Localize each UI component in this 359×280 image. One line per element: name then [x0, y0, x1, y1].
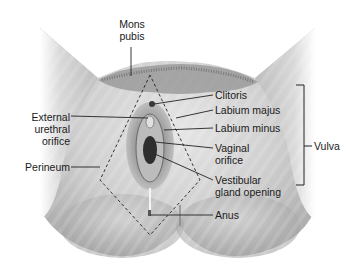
label-anus: Anus [215, 209, 239, 221]
label-line: Vaginal [215, 142, 249, 154]
label-line: Vestibular [215, 174, 281, 186]
label-vulva: Vulva [314, 140, 340, 152]
label-vestibular-gland-opening: Vestibular gland opening [215, 174, 281, 198]
label-labium-minus: Labium minus [215, 122, 280, 134]
label-line: External [14, 111, 70, 123]
label-line: orifice [215, 154, 249, 166]
label-external-urethral-orifice: External urethral orifice [14, 111, 70, 147]
label-mons-pubis: Mons pubis [110, 18, 154, 42]
label-perineum: Perineum [14, 161, 70, 173]
label-line: pubis [110, 30, 154, 42]
label-line: urethral [14, 123, 70, 135]
label-line: Mons [110, 18, 154, 30]
label-line: gland opening [215, 186, 281, 198]
vaginal-orifice-shape [143, 136, 157, 164]
label-clitoris: Clitoris [215, 89, 247, 101]
vulva-diagram: Mons pubis Clitoris Labium majus Labium … [0, 0, 359, 280]
label-line: orifice [14, 135, 70, 147]
label-vaginal-orifice: Vaginal orifice [215, 142, 249, 166]
label-labium-majus: Labium majus [215, 104, 280, 116]
